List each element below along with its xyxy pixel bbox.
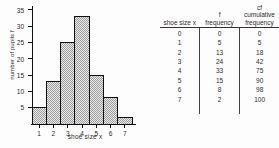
cell-cumulative: 98	[240, 86, 279, 95]
y-tick-label-20: 20	[8, 56, 24, 63]
cell-shoe-size: 3	[160, 58, 199, 67]
table-row: 7 2 100	[160, 95, 279, 104]
y-tick-label-35: 35	[8, 7, 24, 14]
table-row: 6 8 98	[160, 86, 279, 95]
histogram-chart: number of pupils f	[0, 0, 148, 148]
table-header-row: shoe size x f frequency cf cumulative fr…	[160, 4, 279, 28]
table-row: 5 15 90	[160, 76, 279, 85]
cell-shoe-size: 1	[160, 39, 199, 48]
y-ticks	[28, 10, 32, 108]
bar-2	[46, 82, 60, 124]
cell-cumulative: 18	[240, 48, 279, 57]
table-row: 2 13 18	[160, 48, 279, 57]
cell-frequency: 5	[199, 39, 239, 48]
figure-page: number of pupils f	[0, 0, 279, 148]
cell-cumulative: 90	[240, 76, 279, 85]
bar-7	[118, 118, 132, 125]
y-tick-label-15: 15	[8, 72, 24, 79]
header-frequency-symbol: f	[199, 11, 239, 18]
table-row: 0 0 0	[160, 28, 279, 39]
cell-shoe-size: 7	[160, 95, 199, 104]
table-header: shoe size x f frequency cf cumulative fr…	[160, 4, 279, 28]
cell-frequency: 33	[199, 67, 239, 76]
cell-cumulative: 5	[240, 39, 279, 48]
bar-3	[61, 42, 75, 124]
cell-cumulative: 0	[240, 28, 279, 39]
header-frequency: f frequency	[199, 4, 239, 28]
bar-6	[104, 98, 118, 124]
x-axis-title: shoe size x	[30, 133, 140, 140]
bar-5	[89, 75, 103, 124]
rail-divider-2	[240, 104, 279, 114]
cell-frequency: 24	[199, 58, 239, 67]
header-cumulative-label-1: cumulative	[240, 11, 279, 18]
y-tick-label-10: 10	[8, 88, 24, 95]
y-tick-label-30: 30	[8, 23, 24, 30]
cell-frequency: 13	[199, 48, 239, 57]
cell-frequency: 15	[199, 76, 239, 85]
cell-cumulative: 75	[240, 67, 279, 76]
cell-shoe-size: 5	[160, 76, 199, 85]
header-frequency-label: frequency	[199, 19, 239, 26]
x-ticks	[39, 124, 125, 128]
cell-cumulative: 100	[240, 95, 279, 104]
bar-1	[32, 108, 46, 124]
table-column-rail-extension	[160, 104, 279, 114]
y-tick-label-5: 5	[8, 104, 24, 111]
header-shoe-size-label: shoe size x	[160, 19, 199, 26]
header-cumulative-frequency: cf cumulative frequency	[240, 4, 279, 28]
rail-divider-1	[199, 104, 239, 114]
cell-cumulative: 42	[240, 58, 279, 67]
cell-frequency: 0	[199, 28, 239, 39]
cell-frequency: 8	[199, 86, 239, 95]
cell-shoe-size: 2	[160, 48, 199, 57]
cell-shoe-size: 0	[160, 28, 199, 39]
table-row: 4 33 75	[160, 67, 279, 76]
cell-shoe-size: 6	[160, 86, 199, 95]
header-cumulative-symbol: cf	[240, 4, 279, 11]
rail-spacer	[160, 104, 199, 114]
cell-frequency: 2	[199, 95, 239, 104]
bars	[32, 16, 132, 124]
table-row: 1 5 5	[160, 39, 279, 48]
frequency-table-grid: shoe size x f frequency cf cumulative fr…	[160, 4, 279, 114]
table-row: 3 24 42	[160, 58, 279, 67]
frequency-table: shoe size x f frequency cf cumulative fr…	[160, 4, 279, 140]
bar-4	[75, 16, 89, 124]
header-shoe-size: shoe size x	[160, 4, 199, 28]
y-tick-label-25: 25	[8, 39, 24, 46]
table-body: 0 0 0 1 5 5 2 13 18 3 24 42	[160, 28, 279, 115]
cell-shoe-size: 4	[160, 67, 199, 76]
header-cumulative-label-2: frequency	[240, 19, 279, 26]
